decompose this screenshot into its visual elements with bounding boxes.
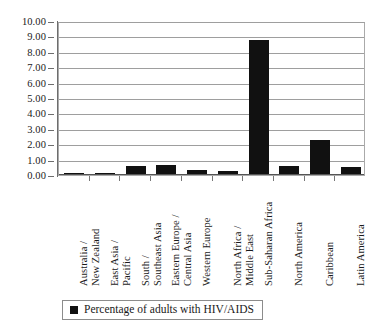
y-axis-tick-label: 4.00 — [0, 109, 46, 119]
bar-slot — [335, 23, 366, 175]
x-axis-label: East Asia /Pacific — [109, 240, 132, 286]
x-axis-tick-mark — [242, 176, 243, 181]
y-axis-tick-label: 2.00 — [0, 140, 46, 150]
y-axis-tick-label: 3.00 — [0, 125, 46, 135]
x-axis-label: Australia /New Zealand — [78, 229, 101, 286]
y-axis: 0.001.002.003.004.005.006.007.008.009.00… — [0, 0, 56, 190]
y-axis-tick-label: 8.00 — [0, 48, 46, 58]
x-axis-labels: Australia /New ZealandEast Asia /Pacific… — [0, 182, 370, 290]
y-axis-tick-mark — [48, 53, 54, 54]
bar-chart: 0.001.002.003.004.005.006.007.008.009.00… — [0, 0, 370, 330]
y-axis-tick-label: 9.00 — [0, 32, 46, 42]
chart-legend: Percentage of adults with HIV/AIDS — [62, 300, 263, 320]
x-axis-label: Eastern Europe /Central Asia — [170, 214, 193, 286]
bar-slot — [182, 23, 213, 175]
x-axis-tick-mark — [119, 176, 120, 181]
y-axis-tick-label: 1.00 — [0, 156, 46, 166]
bars-layer — [59, 23, 364, 175]
bar-slot — [243, 23, 274, 175]
bar-slot — [274, 23, 305, 175]
y-axis-tick-mark — [48, 84, 54, 85]
legend-swatch-icon — [70, 306, 78, 314]
bar-slot — [90, 23, 121, 175]
y-axis-tick-label: 6.00 — [0, 79, 46, 89]
bar-slot — [151, 23, 182, 175]
y-axis-tick-mark — [48, 37, 54, 38]
y-axis-tick-label: 0.00 — [0, 171, 46, 181]
y-axis-tick-mark — [48, 145, 54, 146]
x-axis-label: Latin America — [355, 224, 367, 286]
x-axis-label: South /Southeast Asia — [140, 222, 163, 286]
bar-slot — [213, 23, 244, 175]
x-axis-tick-mark — [273, 176, 274, 181]
y-axis-tick-label: 7.00 — [0, 63, 46, 73]
x-axis-tick-mark — [89, 176, 90, 181]
y-axis-tick-mark — [48, 161, 54, 162]
y-axis-tick-mark — [48, 99, 54, 100]
x-axis-tick-mark — [334, 176, 335, 181]
x-axis-label: Caribbean — [324, 242, 336, 286]
x-axis-tick-mark — [212, 176, 213, 181]
plot-wrapper: 0.001.002.003.004.005.006.007.008.009.00… — [0, 0, 370, 190]
x-axis-label: North Africa /Middle East — [232, 226, 255, 286]
bar-slot — [305, 23, 336, 175]
y-axis-tick-mark — [48, 114, 54, 115]
bar[interactable] — [310, 140, 330, 175]
x-axis-baseline — [59, 174, 364, 175]
bar-slot — [120, 23, 151, 175]
y-axis-tick-label: 10.00 — [0, 17, 46, 27]
bar-slot — [59, 23, 90, 175]
y-axis-tick-mark — [48, 130, 54, 131]
x-axis-label: North America — [293, 222, 305, 286]
legend-label: Percentage of adults with HIV/AIDS — [84, 303, 254, 316]
x-axis-tick-mark — [150, 176, 151, 181]
x-axis-tick-mark — [304, 176, 305, 181]
bar[interactable] — [249, 40, 269, 175]
y-axis-tick-mark — [48, 176, 54, 177]
y-axis-tick-mark — [48, 68, 54, 69]
y-axis-tick-label: 5.00 — [0, 94, 46, 104]
x-axis-label: Sub-Saharan Africa — [263, 202, 275, 286]
x-axis-tick-mark — [181, 176, 182, 181]
x-axis-label: Western Europe — [201, 218, 213, 287]
y-axis-tick-mark — [48, 22, 54, 23]
plot-area — [58, 22, 365, 176]
